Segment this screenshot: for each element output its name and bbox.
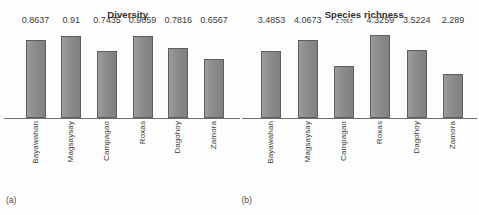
bar-rect <box>168 48 188 118</box>
x-tick-label: Campagao <box>103 121 111 161</box>
bar-slot: 0.9059 <box>125 26 160 118</box>
bar-value-label: 3.5224 <box>403 16 431 25</box>
x-tick-label: Zamora <box>449 121 457 149</box>
x-tick-label: Roxas <box>139 121 147 144</box>
cat-slot: Magsaysay <box>54 121 89 183</box>
x-tick-label: Dagohoy <box>413 121 421 154</box>
cat-slot: Zamora <box>435 121 471 183</box>
bar-slot: 0.91 <box>54 26 89 118</box>
x-tick-label: Dagohoy <box>174 121 182 154</box>
bar-slot: 3.5224 <box>399 26 435 118</box>
bar-rect <box>133 36 153 118</box>
cat-slot: Campagao <box>89 121 124 183</box>
x-tick-label: Zamora <box>210 121 218 149</box>
bar-slot: 0.7435 <box>89 26 124 118</box>
panel-species-richness: Species richness 3.4853 4.0673 2.7063 4.… <box>240 0 479 215</box>
cat-slot: Bayawahan <box>18 121 53 183</box>
x-axis-line <box>4 118 240 119</box>
bar-rect <box>61 36 81 118</box>
x-axis-category-labels: Bayawahan Magsaysay Campagao Roxas Dagoh… <box>254 121 472 183</box>
bar-value-label: 4.0673 <box>294 16 322 25</box>
figure-two-panel-bar-charts: Diversity 0.8637 0.91 0.7435 0.9059 <box>0 0 479 215</box>
bar-slot: 3.4853 <box>254 26 290 118</box>
bar-value-label: 3.4853 <box>258 16 286 25</box>
bar-slot: 4.3259 <box>362 26 398 118</box>
bar-rect <box>334 66 354 118</box>
cat-slot: Dagohoy <box>161 121 196 183</box>
bar-slot: 0.8637 <box>18 26 53 118</box>
x-axis-category-labels: Bayawahan Magsaysay Campagao Roxas Dagoh… <box>18 121 232 183</box>
bar-rect <box>370 35 390 118</box>
bar-value-label: 0.7816 <box>164 16 192 25</box>
x-tick-label: Magsaysay <box>67 121 75 162</box>
bar-value-label: 4.3259 <box>367 16 395 25</box>
plot-area-species-richness: 3.4853 4.0673 2.7063 4.3259 3.5224 <box>254 26 472 118</box>
bar-slot: 2.7063 <box>326 26 362 118</box>
panel-diversity: Diversity 0.8637 0.91 0.7435 0.9059 <box>0 0 240 215</box>
x-tick-label: Campagao <box>340 121 348 161</box>
x-axis-line <box>242 118 478 119</box>
x-tick-label: Magsaysay <box>304 121 312 162</box>
cat-slot: Magsaysay <box>290 121 326 183</box>
cat-slot: Campagao <box>326 121 362 183</box>
x-tick-label: Roxas <box>376 121 384 144</box>
bar-value-label: 0.91 <box>63 16 81 25</box>
plot-area-diversity: 0.8637 0.91 0.7435 0.9059 0.7816 <box>18 26 232 118</box>
bar-rect <box>443 74 463 118</box>
bar-value-label: 0.6567 <box>200 16 228 25</box>
bar-value-label: 0.7435 <box>93 16 121 25</box>
bar-slot: 4.0673 <box>290 26 326 118</box>
bar-slot: 0.6567 <box>196 26 231 118</box>
bar-rect <box>97 51 117 118</box>
cat-slot: Roxas <box>362 121 398 183</box>
bar-rect <box>26 40 46 118</box>
cat-slot: Roxas <box>125 121 160 183</box>
x-tick-label: Bayawahan <box>267 121 275 164</box>
bar-rect <box>407 50 427 118</box>
bar-value-label: 0.9059 <box>129 16 157 25</box>
bar-value-label: 2.7063 <box>336 19 353 25</box>
subfigure-caption-a: (a) <box>6 195 16 205</box>
bar-slot: 0.7816 <box>161 26 196 118</box>
bar-group-species-richness: 3.4853 4.0673 2.7063 4.3259 3.5224 <box>254 26 472 118</box>
cat-slot: Bayawahan <box>254 121 290 183</box>
bar-rect <box>261 51 281 118</box>
bar-value-label: 0.8637 <box>22 16 50 25</box>
subfigure-caption-b: (b) <box>242 195 252 205</box>
bar-group-diversity: 0.8637 0.91 0.7435 0.9059 0.7816 <box>18 26 232 118</box>
cat-slot: Zamora <box>196 121 231 183</box>
bar-rect <box>298 40 318 118</box>
bar-rect <box>204 59 224 118</box>
cat-slot: Dagohoy <box>399 121 435 183</box>
x-tick-label: Bayawahan <box>32 121 40 164</box>
bar-value-label: 2.289 <box>442 16 465 25</box>
bar-slot: 2.289 <box>435 26 471 118</box>
